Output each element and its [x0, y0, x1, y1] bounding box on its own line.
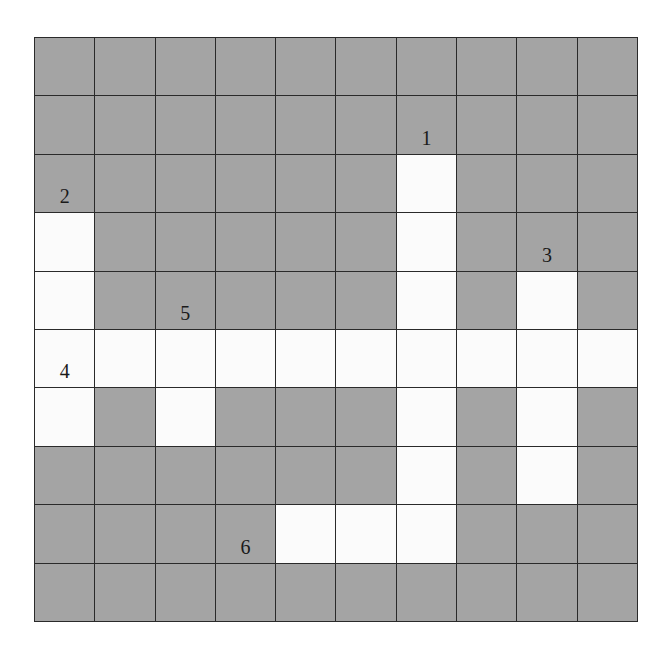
- blocked-cell: 2: [35, 155, 94, 212]
- blocked-cell: [276, 564, 335, 621]
- open-cell[interactable]: [457, 330, 516, 387]
- blocked-cell: [457, 272, 516, 329]
- open-cell[interactable]: [397, 388, 456, 445]
- blocked-cell: [35, 447, 94, 504]
- blocked-cell: [517, 155, 576, 212]
- blocked-cell: [336, 96, 395, 153]
- blocked-cell: [95, 272, 154, 329]
- blocked-cell: [216, 272, 275, 329]
- blocked-cell: [276, 272, 335, 329]
- blocked-cell: [578, 96, 637, 153]
- blocked-cell: [156, 505, 215, 562]
- blocked-cell: [216, 38, 275, 95]
- blocked-cell: [95, 155, 154, 212]
- blocked-cell: [35, 505, 94, 562]
- blocked-cell: [156, 447, 215, 504]
- blocked-cell: [35, 564, 94, 621]
- blocked-cell: [517, 96, 576, 153]
- open-cell[interactable]: [397, 155, 456, 212]
- open-cell[interactable]: [397, 330, 456, 387]
- open-cell[interactable]: [35, 388, 94, 445]
- blocked-cell: 5: [156, 272, 215, 329]
- blocked-cell: [216, 155, 275, 212]
- blocked-cell: 1: [397, 96, 456, 153]
- blocked-cell: [216, 447, 275, 504]
- blocked-cell: [216, 388, 275, 445]
- blocked-cell: [276, 155, 335, 212]
- blocked-cell: [457, 564, 516, 621]
- open-cell[interactable]: [156, 330, 215, 387]
- blocked-cell: [578, 564, 637, 621]
- clue-number: 2: [35, 186, 94, 206]
- blocked-cell: [397, 38, 456, 95]
- blocked-cell: [35, 96, 94, 153]
- blocked-cell: [578, 272, 637, 329]
- open-cell[interactable]: 4: [35, 330, 94, 387]
- open-cell[interactable]: [517, 447, 576, 504]
- open-cell[interactable]: [35, 272, 94, 329]
- blocked-cell: [95, 38, 154, 95]
- blocked-cell: [578, 505, 637, 562]
- open-cell[interactable]: [276, 505, 335, 562]
- blocked-cell: [578, 155, 637, 212]
- crossword-grid: 123546: [34, 37, 638, 622]
- blocked-cell: [336, 213, 395, 270]
- blocked-cell: [95, 564, 154, 621]
- blocked-cell: [216, 96, 275, 153]
- blocked-cell: [457, 505, 516, 562]
- blocked-cell: [156, 155, 215, 212]
- blocked-cell: [517, 505, 576, 562]
- open-cell[interactable]: [397, 505, 456, 562]
- open-cell[interactable]: [397, 272, 456, 329]
- open-cell[interactable]: [578, 330, 637, 387]
- blocked-cell: [95, 447, 154, 504]
- open-cell[interactable]: [95, 330, 154, 387]
- blocked-cell: [578, 213, 637, 270]
- blocked-cell: [276, 38, 335, 95]
- clue-number: 5: [156, 303, 215, 323]
- blocked-cell: [276, 213, 335, 270]
- blocked-cell: [517, 38, 576, 95]
- blocked-cell: [457, 388, 516, 445]
- blocked-cell: [457, 96, 516, 153]
- open-cell[interactable]: [156, 388, 215, 445]
- open-cell[interactable]: [517, 388, 576, 445]
- blocked-cell: [156, 96, 215, 153]
- blocked-cell: [336, 38, 395, 95]
- blocked-cell: 6: [216, 505, 275, 562]
- open-cell[interactable]: [35, 213, 94, 270]
- blocked-cell: [216, 564, 275, 621]
- blocked-cell: [336, 272, 395, 329]
- open-cell[interactable]: [216, 330, 275, 387]
- clue-number: 1: [397, 128, 456, 148]
- clue-number: 4: [35, 361, 94, 381]
- blocked-cell: [216, 213, 275, 270]
- blocked-cell: [336, 564, 395, 621]
- open-cell[interactable]: [517, 272, 576, 329]
- blocked-cell: [578, 38, 637, 95]
- blocked-cell: [336, 155, 395, 212]
- open-cell[interactable]: [336, 330, 395, 387]
- blocked-cell: [276, 388, 335, 445]
- blocked-cell: [457, 155, 516, 212]
- open-cell[interactable]: [397, 447, 456, 504]
- blocked-cell: [276, 447, 335, 504]
- blocked-cell: [397, 564, 456, 621]
- blocked-cell: [578, 388, 637, 445]
- blocked-cell: [95, 505, 154, 562]
- open-cell[interactable]: [336, 505, 395, 562]
- clue-number: 3: [517, 245, 576, 265]
- open-cell[interactable]: [276, 330, 335, 387]
- blocked-cell: [276, 96, 335, 153]
- blocked-cell: 3: [517, 213, 576, 270]
- open-cell[interactable]: [517, 330, 576, 387]
- open-cell[interactable]: [397, 213, 456, 270]
- blocked-cell: [336, 388, 395, 445]
- blocked-cell: [95, 96, 154, 153]
- blocked-cell: [336, 447, 395, 504]
- blocked-cell: [457, 447, 516, 504]
- blocked-cell: [35, 38, 94, 95]
- blocked-cell: [95, 388, 154, 445]
- clue-number: 6: [216, 537, 275, 557]
- blocked-cell: [457, 213, 516, 270]
